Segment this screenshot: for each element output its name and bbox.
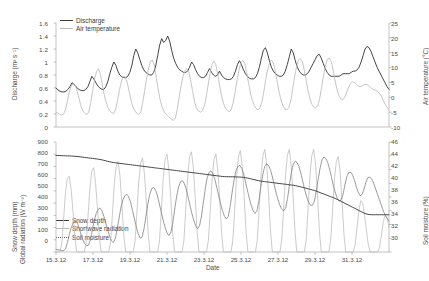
top-panel: Discharge (m³ s⁻¹) Air temperature (°C) … [0, 0, 427, 140]
top-ytick-7: 0.2 [22, 111, 48, 118]
xtick-3: 21.3.12 [148, 256, 186, 263]
top-y2tick-0: 25 [391, 20, 398, 27]
xtick-5: 25.3.12 [222, 256, 260, 263]
top-right-axis-title: Air temperature (°C) [422, 48, 429, 105]
top-y2tick-7: -10 [391, 124, 400, 131]
top-ytick-2: 1.2 [22, 46, 48, 53]
line-swatch-icon [60, 28, 73, 29]
xtick-4: 23.3.12 [185, 256, 223, 263]
top-y2tick-1: 20 [391, 35, 398, 42]
top-ytick-6: 0.4 [22, 98, 48, 105]
top-ytick-1: 1.4 [22, 33, 48, 40]
top-ytick-0: 1.6 [22, 20, 48, 27]
xtick-2: 19.3.12 [111, 256, 149, 263]
top-y2tick-5: 0 [391, 94, 395, 101]
legend-item-discharge: Discharge [60, 16, 120, 24]
bottom-plot-svg [0, 140, 427, 258]
top-y2tick-6: -5 [391, 109, 397, 116]
top-left-axis-title: Discharge (m³ s⁻¹) [11, 48, 19, 100]
xtick-8: 31.3.12 [333, 256, 371, 263]
top-ytick-5: 0.6 [22, 85, 48, 92]
top-ytick-3: 1 [22, 59, 48, 66]
xtick-1: 17.3.12 [74, 256, 112, 263]
x-axis-title: Date [206, 264, 220, 271]
xtick-6: 27.3.12 [259, 256, 297, 263]
top-ytick-8: 0 [22, 124, 48, 131]
top-legend: Discharge Air temperature [60, 16, 120, 33]
legend-label-air-temperature: Air temperature [76, 25, 120, 32]
bottom-panel: Snow depth (mm) Global radiation (W m⁻²)… [0, 140, 427, 281]
top-y2tick-3: 10 [391, 64, 398, 71]
top-y2tick-2: 15 [391, 50, 398, 57]
top-y2tick-4: 5 [391, 79, 395, 86]
top-ytick-4: 0.8 [22, 72, 48, 79]
legend-item-air-temperature: Air temperature [60, 25, 120, 33]
xtick-7: 29.3.12 [296, 256, 334, 263]
series-soil-moisture [56, 157, 389, 251]
xtick-0: 15.3.12 [37, 256, 75, 263]
legend-label-discharge: Discharge [76, 17, 105, 24]
series-air-temperature [56, 58, 389, 120]
line-swatch-icon [60, 20, 73, 21]
series-discharge [56, 36, 389, 92]
